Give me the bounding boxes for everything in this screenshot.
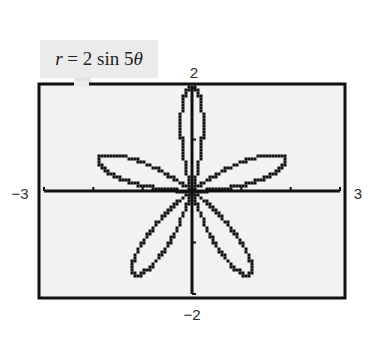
curve-pixel xyxy=(212,242,215,245)
curve-pixel xyxy=(170,209,173,212)
curve-pixel xyxy=(173,206,176,209)
curve-pixel xyxy=(188,194,191,197)
curve-pixel xyxy=(260,155,263,158)
curve-pixel xyxy=(230,167,233,170)
curve-pixel xyxy=(209,236,212,239)
curve-pixel xyxy=(182,149,185,152)
curve-pixel xyxy=(179,134,182,137)
curve-pixel xyxy=(158,167,161,170)
curve-pixel xyxy=(149,230,152,233)
curve-pixel xyxy=(164,212,167,215)
curve-pixel xyxy=(206,227,209,230)
curve-pixel xyxy=(182,101,185,104)
curve-pixel xyxy=(119,176,122,179)
curve-pixel xyxy=(167,173,170,176)
curve-pixel xyxy=(143,185,146,188)
curve-pixel xyxy=(134,254,137,257)
curve-pixel xyxy=(251,260,254,263)
curve-pixel xyxy=(203,182,206,185)
curve-pixel xyxy=(182,98,185,101)
curve-pixel xyxy=(248,260,251,263)
curve-pixel xyxy=(152,167,155,170)
curve-pixel xyxy=(248,182,251,185)
curve-pixel xyxy=(182,143,185,146)
curve-pixel xyxy=(167,209,170,212)
curve-pixel xyxy=(272,155,275,158)
curve-pixel xyxy=(122,155,125,158)
curve-pixel xyxy=(185,170,188,173)
curve-pixel xyxy=(221,170,224,173)
curve-pixel xyxy=(140,185,143,188)
curve-pixel xyxy=(194,89,197,92)
curve-pixel xyxy=(197,209,200,212)
curve-pixel xyxy=(200,95,203,98)
curve-pixel xyxy=(275,155,278,158)
curve-pixel xyxy=(233,233,236,236)
curve-pixel xyxy=(182,191,185,194)
curve-pixel xyxy=(110,173,113,176)
curve-pixel xyxy=(248,257,251,260)
curve-pixel xyxy=(254,182,257,185)
curve-pixel xyxy=(164,215,167,218)
curve-pixel xyxy=(212,188,215,191)
curve-pixel xyxy=(185,206,188,209)
curve-pixel xyxy=(197,167,200,170)
curve-pixel xyxy=(188,197,191,200)
curve-pixel xyxy=(146,164,149,167)
curve-pixel xyxy=(185,89,188,92)
curve-pixel xyxy=(188,185,191,188)
curve-pixel xyxy=(203,191,206,194)
curve-pixel xyxy=(284,155,287,158)
curve-pixel xyxy=(176,227,179,230)
curve-pixel xyxy=(119,155,122,158)
curve-pixel xyxy=(200,110,203,113)
curve-pixel xyxy=(224,170,227,173)
curve-pixel xyxy=(185,161,188,164)
curve-pixel xyxy=(230,185,233,188)
curve-pixel xyxy=(275,173,278,176)
curve-pixel xyxy=(203,200,206,203)
curve-pixel xyxy=(200,140,203,143)
curve-pixel xyxy=(176,200,179,203)
curve-pixel xyxy=(191,188,194,191)
curve-pixel xyxy=(176,188,179,191)
curve-pixel xyxy=(119,179,122,182)
curve-pixel xyxy=(209,188,212,191)
curve-pixel xyxy=(143,161,146,164)
curve-pixel xyxy=(161,251,164,254)
curve-pixel xyxy=(197,194,200,197)
curve-pixel xyxy=(248,158,251,161)
curve-pixel xyxy=(194,188,197,191)
curve-pixel xyxy=(269,173,272,176)
curve-pixel xyxy=(197,164,200,167)
curve-pixel xyxy=(149,266,152,269)
curve-pixel xyxy=(200,146,203,149)
curve-pixel xyxy=(269,176,272,179)
curve-pixel xyxy=(197,161,200,164)
curve-pixel xyxy=(209,179,212,182)
curve-pixel xyxy=(194,86,197,89)
curve-pixel xyxy=(194,179,197,182)
curve-pixel xyxy=(233,269,236,272)
curve-pixel xyxy=(131,266,134,269)
curve-pixel xyxy=(251,269,254,272)
curve-pixel xyxy=(185,92,188,95)
curve-pixel xyxy=(206,179,209,182)
curve-pixel xyxy=(179,137,182,140)
curve-pixel xyxy=(275,170,278,173)
curve-pixel xyxy=(164,248,167,251)
curve-pixel xyxy=(134,182,137,185)
curve-pixel xyxy=(215,188,218,191)
curve-pixel xyxy=(125,155,128,158)
curve-pixel xyxy=(215,245,218,248)
curve-pixel xyxy=(215,176,218,179)
curve-pixel xyxy=(197,203,200,206)
curve-pixel xyxy=(221,254,224,257)
curve-pixel xyxy=(131,269,134,272)
curve-pixel xyxy=(137,158,140,161)
curve-pixel xyxy=(188,176,191,179)
curve-pixel xyxy=(140,275,143,278)
curve-pixel xyxy=(239,161,242,164)
curve-pixel xyxy=(224,257,227,260)
curve-pixel xyxy=(191,194,194,197)
